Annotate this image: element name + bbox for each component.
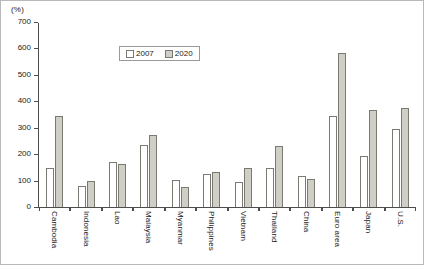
y-axis-tick: 400 — [34, 101, 38, 102]
bar-groups — [39, 23, 416, 208]
bar-group — [196, 23, 227, 208]
category-label-cell: Vietnam — [228, 211, 259, 265]
y-axis-tick: 300 — [34, 128, 38, 129]
category-labels: CambodiaIndonesiaLaoMalaysiaMyanmarPhili… — [39, 211, 416, 265]
y-axis-tick-label: 200 — [18, 149, 31, 158]
bar-2020 — [212, 172, 220, 208]
x-axis-line — [38, 207, 416, 208]
category-label: Thailand — [270, 211, 279, 243]
bar-2007 — [172, 180, 180, 208]
bar-2007 — [266, 168, 274, 208]
bar-2007 — [392, 129, 400, 208]
bar-2007 — [109, 162, 117, 208]
category-label: Indonesia — [82, 211, 91, 247]
category-label: U.S. — [396, 211, 405, 227]
bar-group — [39, 23, 70, 208]
plot-area: 0100200300400500600700 — [38, 23, 416, 208]
bar-2020 — [275, 146, 283, 208]
bar-2007 — [203, 174, 211, 208]
y-axis-tick: 100 — [34, 181, 38, 182]
bar-chart: (%) 2007 2020 0100200300400500600700 Cam… — [0, 0, 424, 265]
category-label-cell: U.S. — [385, 211, 416, 265]
category-label: Lao — [113, 211, 122, 225]
category-label: Myanmar — [176, 211, 185, 245]
bar-group — [290, 23, 321, 208]
bar-group — [259, 23, 290, 208]
category-label: Japan — [364, 211, 373, 233]
category-label-cell: Indonesia — [70, 211, 101, 265]
bar-group — [385, 23, 416, 208]
bar-group — [165, 23, 196, 208]
bar-group — [228, 23, 259, 208]
bar-2020 — [401, 108, 409, 208]
bar-2020 — [149, 135, 157, 208]
category-label-cell: China — [290, 211, 321, 265]
category-label-cell: Thailand — [259, 211, 290, 265]
bar-2020 — [118, 164, 126, 208]
category-label-cell: Euro area — [322, 211, 353, 265]
y-axis-tick: 200 — [34, 154, 38, 155]
bar-group — [353, 23, 384, 208]
bar-group — [322, 23, 353, 208]
category-label-cell: Malaysia — [133, 211, 164, 265]
category-label: Vietnam — [239, 211, 248, 241]
y-axis-tick-label: 100 — [18, 176, 31, 185]
bar-2007 — [140, 145, 148, 208]
bar-2007 — [360, 156, 368, 208]
y-axis-tick: 500 — [34, 75, 38, 76]
bar-2020 — [307, 179, 315, 208]
y-axis-tick-label: 700 — [18, 17, 31, 26]
category-label-cell: Japan — [353, 211, 384, 265]
bar-2020 — [244, 168, 252, 208]
y-axis-tick-label: 300 — [18, 123, 31, 132]
category-label-cell: Cambodia — [39, 211, 70, 265]
y-axis-tick-label: 400 — [18, 96, 31, 105]
category-label: Euro area — [333, 211, 342, 247]
bar-2020 — [87, 181, 95, 208]
bar-2007 — [329, 116, 337, 208]
category-label: Malaysia — [144, 211, 153, 243]
bar-2020 — [338, 53, 346, 208]
bar-2020 — [55, 116, 63, 208]
category-label-cell: Lao — [102, 211, 133, 265]
bar-group — [70, 23, 101, 208]
bar-2020 — [369, 110, 377, 208]
y-axis-tick: 700 — [34, 22, 38, 23]
y-axis-tick-label: 600 — [18, 43, 31, 52]
y-axis-tick: 600 — [34, 48, 38, 49]
bar-group — [133, 23, 164, 208]
bar-group — [102, 23, 133, 208]
category-label: China — [302, 211, 311, 232]
bar-2007 — [46, 168, 54, 208]
category-label-cell: Philippines — [196, 211, 227, 265]
y-axis-tick-label: 500 — [18, 70, 31, 79]
category-label: Cambodia — [50, 211, 59, 248]
bar-2007 — [235, 182, 243, 208]
bar-2020 — [181, 187, 189, 208]
y-axis-tick-label: 0 — [27, 202, 31, 211]
category-label-cell: Myanmar — [165, 211, 196, 265]
category-label: Philippines — [207, 211, 216, 251]
bar-2007 — [78, 186, 86, 208]
y-axis-unit-label: (%) — [11, 5, 24, 14]
bar-2007 — [298, 176, 306, 208]
